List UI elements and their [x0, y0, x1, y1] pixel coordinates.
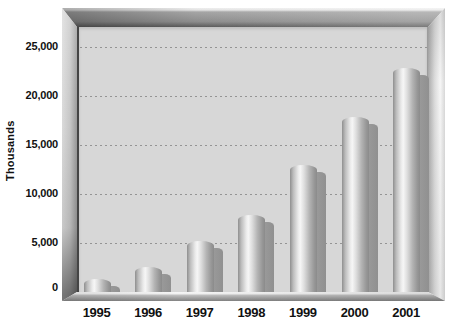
bar-cylinder [238, 215, 265, 292]
bar-1998 [238, 215, 274, 292]
frame-right-bevel [428, 8, 445, 301]
chart-frame [62, 8, 445, 301]
frame-left-bevel [62, 8, 77, 301]
bar-2001 [393, 68, 429, 292]
bar-cylinder [135, 267, 162, 292]
x-axis-label: 2000 [329, 305, 381, 320]
y-axis-tick-label: 10,000 [0, 187, 58, 199]
bar-cylinder [290, 165, 317, 292]
gridline [80, 47, 427, 48]
y-axis-tick-label: 15,000 [0, 138, 58, 150]
chart-floor-bevel [62, 292, 445, 301]
bar-1995 [84, 279, 120, 292]
x-axis-label: 1996 [122, 305, 174, 320]
x-axis-label: 1998 [225, 305, 277, 320]
y-axis-tick-label: 5,000 [0, 236, 58, 248]
y-axis-tick-label: 25,000 [0, 40, 58, 52]
bar-1996 [135, 267, 171, 292]
y-axis-tick-label: 0 [0, 281, 58, 293]
gridline [80, 96, 427, 97]
x-axis-label: 1997 [174, 305, 226, 320]
bar-1997 [187, 241, 223, 292]
bar-cylinder [342, 117, 369, 292]
bar-2000 [342, 117, 378, 292]
x-axis-label: 1999 [277, 305, 329, 320]
bar-chart-figure: Thousands 25,00020,00015,00010,0005,0000… [0, 0, 451, 328]
frame-top-bevel [62, 8, 445, 27]
y-axis-title: Thousands [3, 104, 17, 198]
bar-cylinder [187, 241, 214, 292]
x-axis-label: 1995 [71, 305, 123, 320]
y-axis-tick-label: 20,000 [0, 89, 58, 101]
bar-cylinder [393, 68, 420, 292]
plot-area [77, 27, 428, 292]
x-axis-label: 2001 [380, 305, 432, 320]
bar-1999 [290, 165, 326, 292]
bar-cylinder [84, 279, 111, 292]
